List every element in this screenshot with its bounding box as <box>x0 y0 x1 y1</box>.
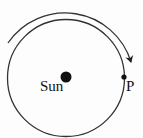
direction-arrow <box>8 13 131 62</box>
orbit-svg <box>0 0 143 138</box>
orbit-diagram: Sun P <box>0 0 143 138</box>
planet-label: P <box>126 79 134 94</box>
sun-label: Sun <box>40 79 63 94</box>
